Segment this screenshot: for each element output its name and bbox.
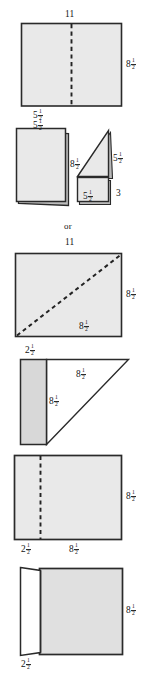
figure-4-strip-and-triangle [21, 360, 129, 445]
figure-6-right-label: 8 1 2 [126, 604, 136, 616]
connector-or-label: or [64, 222, 72, 231]
figure-3-diagonal-label: 8 1 2 [79, 320, 89, 332]
figure-6-paper [40, 569, 123, 655]
figure-1-top-label: 11 [65, 10, 74, 19]
figure-2b-triangle-right-label: 5 1 2 [113, 152, 123, 164]
figure-3-right-label: 8 1 2 [126, 288, 136, 300]
figure-6-sheet-with-flap [21, 568, 123, 656]
figure-4-strip-width-label: 2 1 2 [25, 344, 35, 356]
figure-5-paper [15, 456, 122, 540]
figure-5-right-label: 8 1 2 [126, 490, 136, 502]
figure-4-triangle-vertical-label: 8 1 2 [49, 395, 59, 407]
figure-3-top-label: 11 [65, 238, 74, 247]
figure-2b-rectangle-right-label: 3 [116, 189, 121, 198]
figure-6-flap [21, 568, 41, 656]
figure-2a-folded-half-sheet [17, 129, 69, 206]
figure-1-full-sheet-vertical-fold [22, 24, 122, 107]
figure-5-bottom-left-label: 2 1 2 [21, 543, 31, 555]
figure-2b-bottom-label: 5 1 2 [83, 190, 93, 202]
figure-2a-top-label: 5 1 2 [33, 119, 43, 131]
figure-drawing-layer [0, 0, 147, 680]
figure-1-right-label: 8 1 2 [126, 58, 136, 70]
figure-2a-right-label: 8 1 2 [70, 158, 80, 170]
diagram-sheet: 11 8 1 2 5 1 2 5 1 2 [0, 0, 147, 680]
figure-2b-triangle-face [78, 131, 109, 177]
figure-4-strip [21, 360, 47, 445]
figure-4-triangle-top-label: 8 1 2 [76, 368, 86, 380]
figure-5-sheet-offset-fold [15, 456, 122, 540]
figure-2a-front-face [17, 129, 66, 202]
figure-6-bottom-left-label: 2 1 2 [21, 658, 31, 670]
figure-5-bottom-right-label: 8 1 2 [69, 543, 79, 555]
figure-4-triangle [47, 360, 129, 445]
figure-3-sheet-diagonal-fold [16, 254, 122, 337]
